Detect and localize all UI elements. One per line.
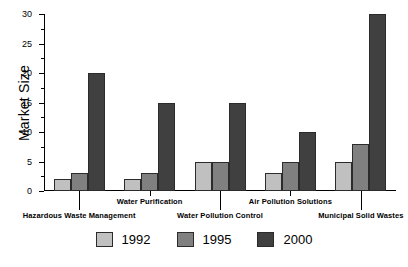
bar: [335, 162, 352, 192]
legend-label: 1992: [122, 232, 151, 247]
bar-group: [265, 14, 316, 191]
bar: [282, 162, 299, 192]
y-tick-label: 15: [22, 98, 32, 108]
bar: [229, 103, 246, 192]
legend-label: 2000: [283, 232, 312, 247]
category-label: Water Purification: [117, 197, 183, 206]
category-label: Hazardous Waste Management: [23, 211, 136, 220]
y-tick-label: 10: [22, 127, 32, 137]
legend-item: 1995: [177, 232, 232, 247]
bar: [265, 173, 282, 191]
legend-item: 1992: [96, 232, 151, 247]
legend-label: 1995: [203, 232, 232, 247]
bar: [299, 132, 316, 191]
legend-swatch: [96, 232, 113, 247]
bar-groups: [44, 14, 396, 191]
bar: [71, 173, 88, 191]
bar-group: [195, 14, 246, 191]
bar: [141, 173, 158, 191]
y-tick-label: 5: [27, 157, 32, 167]
bar: [352, 144, 369, 191]
y-tick-label: 20: [22, 68, 32, 78]
bar: [88, 73, 105, 191]
category-label: Air Pollution Solutions: [249, 197, 332, 206]
legend-swatch: [177, 232, 194, 247]
bar: [212, 162, 229, 192]
category-connector: [79, 191, 80, 210]
chart-legend: 199219952000: [0, 232, 408, 247]
category-connector: [290, 191, 291, 196]
plot-area: 051015202530: [44, 14, 396, 191]
bar: [54, 179, 71, 191]
bar: [124, 179, 141, 191]
y-tick-label: 25: [22, 39, 32, 49]
bar: [369, 14, 386, 191]
bar: [195, 162, 212, 192]
category-connector: [220, 191, 221, 210]
bar-chart: Market Size 051015202530 Hazardous Waste…: [0, 0, 408, 267]
bar: [158, 103, 175, 192]
bar-group: [124, 14, 175, 191]
bar-group: [335, 14, 386, 191]
y-tick-label: 0: [27, 186, 32, 196]
y-tick-label: 30: [22, 9, 32, 19]
category-label: Water Pollution Control: [177, 211, 263, 220]
legend-item: 2000: [257, 232, 312, 247]
category-connector: [150, 191, 151, 196]
legend-swatch: [257, 232, 274, 247]
category-labels: Hazardous Waste ManagementWater Purifica…: [44, 191, 396, 225]
category-label: Municipal Solid Wastes: [318, 211, 403, 220]
bar-group: [54, 14, 105, 191]
category-connector: [361, 191, 362, 210]
